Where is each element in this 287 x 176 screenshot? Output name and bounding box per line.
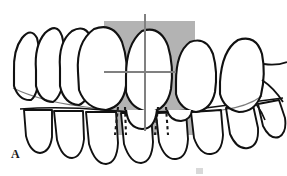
caption-marker	[196, 168, 203, 174]
dental-illustration	[0, 0, 287, 176]
upper-right-central-incisor	[126, 30, 172, 112]
caption-fragment	[196, 166, 287, 176]
upper-right-lateral-incisor	[176, 41, 216, 113]
dental-figure: A	[0, 0, 287, 176]
panel-label: A	[11, 148, 20, 160]
upper-left-central-incisor	[78, 27, 127, 110]
